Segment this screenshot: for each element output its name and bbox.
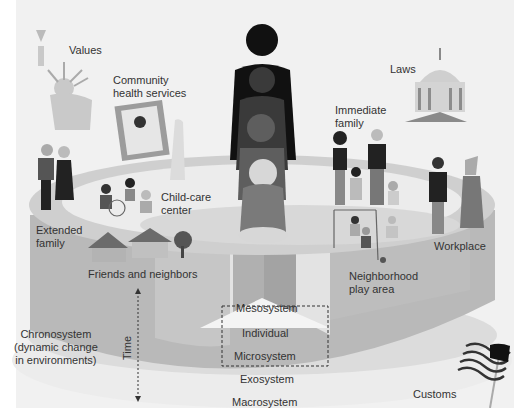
label-community-health-services: Community health services (113, 74, 186, 100)
label-laws: Laws (390, 63, 416, 76)
label-workplace: Workplace (434, 240, 486, 253)
label-friends-and-neighbors: Friends and neighbors (88, 268, 197, 281)
label-chronosystem: Chronosystem (dynamic change in environm… (14, 328, 98, 367)
capitol-building-icon (405, 48, 467, 122)
label-mesosystem: Mesosystem (236, 302, 298, 315)
label-neighborhood-play-area: Neighborhood play area (349, 270, 418, 296)
label-time: Time (121, 336, 133, 360)
label-child-care-center: Child-care center (161, 191, 211, 217)
label-exosystem: Exosystem (240, 373, 294, 386)
label-values: Values (69, 44, 102, 57)
label-extended-family: Extended family (36, 224, 82, 250)
label-individual: Individual (242, 327, 288, 340)
label-customs: Customs (413, 388, 456, 401)
label-macrosystem: Macrosystem (232, 396, 297, 408)
label-microsystem: Microsystem (234, 350, 296, 363)
label-immediate-family: Immediate family (335, 104, 386, 130)
